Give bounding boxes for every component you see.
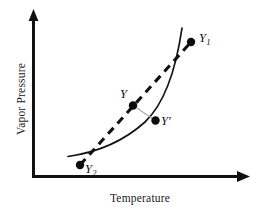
point-label-yprime: Y′: [161, 115, 171, 128]
point-label-y2-subscript: 2: [92, 168, 96, 178]
x-axis-label: Temperature: [90, 192, 190, 204]
data-point-y1: [187, 38, 195, 46]
point-label-y: Y: [120, 88, 127, 101]
point-label-y1-subscript: 1: [206, 37, 210, 47]
arrow-right-icon: [237, 171, 250, 182]
point-label-y-base: Y: [120, 87, 127, 101]
arrow-up-icon: [29, 9, 39, 21]
vapor-pressure-temperature-figure: Vapor Pressure Temperature Y1 Y Y′ Y2: [0, 0, 267, 213]
y-axis-label: Vapor Pressure: [15, 39, 27, 159]
point-label-y2-base: Y: [85, 162, 92, 176]
point-label-yprime-mark: ′: [168, 114, 171, 128]
plot-canvas: [0, 0, 267, 213]
point-label-y1-base: Y: [199, 31, 206, 45]
point-label-yprime-base: Y: [161, 114, 168, 128]
data-point-y2: [76, 161, 84, 169]
point-label-y2: Y2: [85, 163, 96, 176]
point-label-y1: Y1: [199, 32, 210, 45]
data-point-yprime: [151, 116, 159, 124]
data-point-y: [129, 101, 137, 109]
